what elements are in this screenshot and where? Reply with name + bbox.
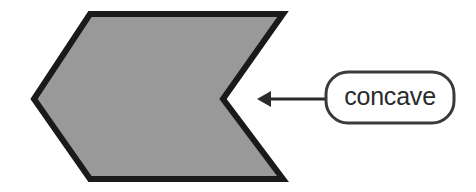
callout-label: concave [344, 82, 436, 110]
figure-canvas: concave [0, 0, 476, 192]
concave-polygon-diagram: concave [0, 0, 476, 192]
